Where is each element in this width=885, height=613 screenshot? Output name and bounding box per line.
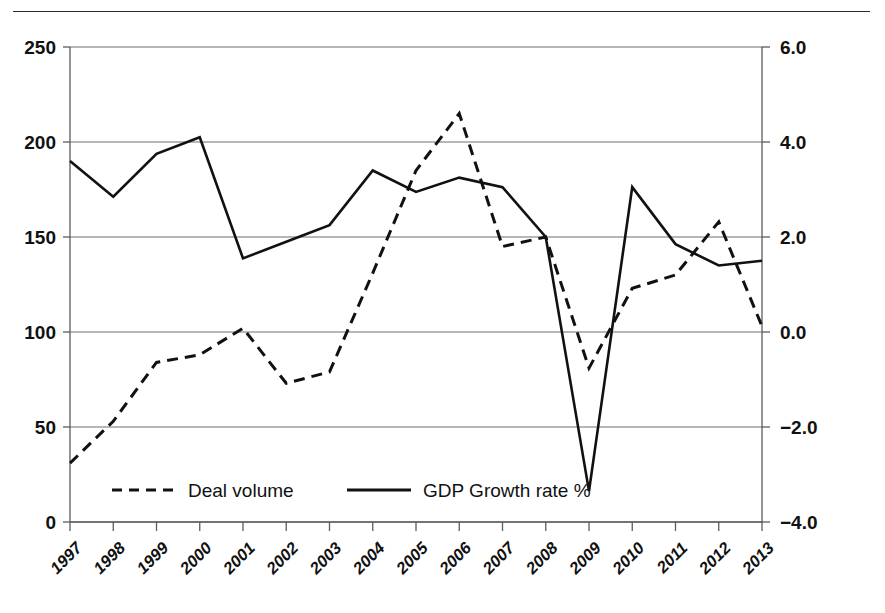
x-axis-tick-label: 2006: [435, 538, 475, 578]
right-axis-tick-label: −4.0: [780, 512, 818, 533]
x-axis-tick-label: 2013: [738, 538, 777, 577]
x-axis-tick-label: 2008: [521, 538, 561, 578]
series-line-deal-volume: [70, 114, 762, 464]
x-axis-labels-group: 1997199819992000200120022003200420052006…: [46, 538, 777, 578]
x-axis-tick-label: 1999: [133, 538, 172, 577]
left-axis-tick-label: 100: [24, 322, 56, 343]
chart-legend: Deal volume GDP Growth rate %: [112, 480, 591, 501]
gridlines-group: [70, 47, 762, 522]
x-axis-tick-label: 2004: [348, 538, 387, 577]
x-axis-tick-label: 2010: [608, 538, 648, 578]
right-axis-tick-label: 0.0: [780, 322, 806, 343]
left-axis-labels-group: 050100150200250: [24, 37, 56, 533]
left-axis-tick-label: 50: [35, 417, 56, 438]
x-axis-tick-label: 2011: [652, 538, 691, 577]
left-axis-tick-label: 150: [24, 227, 56, 248]
series-line-gdp-growth-rate: [70, 137, 762, 491]
x-axis-tick-label: 2001: [219, 538, 258, 577]
right-axis-labels-group: −4.0−2.00.02.04.06.0: [780, 37, 818, 533]
x-axis-tick-label: 2009: [565, 538, 605, 578]
right-axis-tick-label: 6.0: [780, 37, 806, 58]
x-axis-tick-label: 2005: [392, 538, 432, 578]
chart-figure: 050100150200250 −4.0−2.00.02.04.06.0 199…: [0, 0, 885, 613]
legend-label-deal-volume: Deal volume: [188, 480, 294, 501]
x-axis-tick-label: 1998: [90, 538, 129, 577]
x-axis-tick-label: 2000: [175, 538, 215, 578]
axes-group: [70, 47, 762, 522]
legend-label-gdp-growth-rate: GDP Growth rate %: [423, 480, 591, 501]
tickmarks-group: [63, 47, 770, 531]
left-axis-tick-label: 0: [45, 512, 56, 533]
x-axis-tick-label: 2007: [478, 538, 518, 578]
x-axis-tick-label: 2003: [305, 538, 344, 577]
left-axis-tick-label: 200: [24, 132, 56, 153]
right-axis-tick-label: −2.0: [780, 417, 818, 438]
x-axis-tick-label: 1997: [46, 538, 85, 577]
right-axis-tick-label: 2.0: [780, 227, 806, 248]
x-axis-tick-label: 2002: [262, 538, 301, 577]
x-axis-tick-label: 2012: [694, 538, 733, 577]
right-axis-tick-label: 4.0: [780, 132, 806, 153]
series-group: [70, 114, 762, 492]
dual-axis-line-chart: 050100150200250 −4.0−2.00.02.04.06.0 199…: [0, 0, 885, 613]
left-axis-tick-label: 250: [24, 37, 56, 58]
